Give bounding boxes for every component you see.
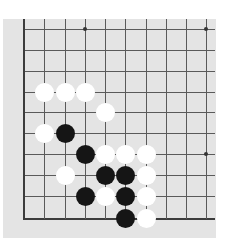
grid-line-vertical <box>65 19 66 219</box>
white-stone[interactable] <box>96 187 115 206</box>
black-stone[interactable] <box>116 166 135 185</box>
black-stone[interactable] <box>76 145 95 164</box>
grid-line-vertical <box>206 19 207 219</box>
grid-line-vertical <box>44 19 45 219</box>
white-stone[interactable] <box>56 166 75 185</box>
star-point <box>204 27 208 31</box>
white-stone[interactable] <box>137 166 156 185</box>
white-stone[interactable] <box>76 83 95 102</box>
white-stone[interactable] <box>96 145 115 164</box>
white-stone[interactable] <box>137 145 156 164</box>
grid-line-vertical <box>23 19 25 219</box>
grid-line-vertical <box>166 19 167 219</box>
star-point <box>83 27 87 31</box>
grid-line-vertical <box>186 19 187 219</box>
black-stone[interactable] <box>96 166 115 185</box>
white-stone[interactable] <box>35 124 54 143</box>
white-stone[interactable] <box>56 83 75 102</box>
white-stone[interactable] <box>96 103 115 122</box>
black-stone[interactable] <box>116 209 135 228</box>
black-stone[interactable] <box>116 187 135 206</box>
star-point <box>204 152 208 156</box>
white-stone[interactable] <box>35 83 54 102</box>
black-stone[interactable] <box>76 187 95 206</box>
white-stone[interactable] <box>116 145 135 164</box>
black-stone[interactable] <box>56 124 75 143</box>
white-stone[interactable] <box>137 209 156 228</box>
white-stone[interactable] <box>137 187 156 206</box>
